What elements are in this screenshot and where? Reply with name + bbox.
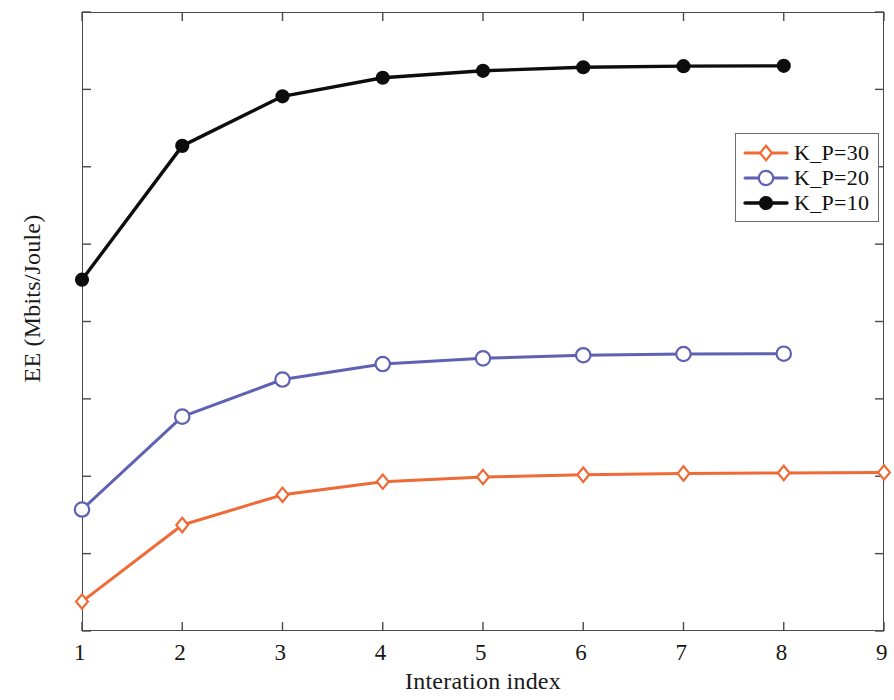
- legend-item[interactable]: K_P=10: [743, 190, 869, 215]
- chart-legend: K_P=30K_P=20K_P=10: [735, 133, 879, 222]
- axis-tick-marks: [82, 12, 884, 631]
- x-tick-label-text: 3: [275, 640, 287, 666]
- plot-canvas: [82, 12, 884, 631]
- legend-marker-diamond-icon: [743, 142, 789, 164]
- legend-marker-circle-icon: [743, 167, 789, 189]
- x-tick-label-text: 4: [375, 640, 387, 666]
- x-tick-label-text: 8: [776, 640, 788, 666]
- x-tick-label-text: 7: [676, 640, 688, 666]
- legend-item[interactable]: K_P=20: [743, 165, 869, 190]
- x-tick-label-text: 1: [74, 640, 86, 666]
- x-tick-label-text: 5: [475, 640, 487, 666]
- x-tick-label-text: 9: [876, 640, 888, 666]
- chart-figure: EE (Mbits/Joule) Interation index 0.250.…: [0, 0, 894, 700]
- series-k-p-20: [75, 346, 791, 516]
- x-axis-label: Interation index: [82, 668, 884, 695]
- x-tick-label-text: 6: [575, 640, 587, 666]
- y-axis-label: EE (Mbits/Joule): [19, 159, 46, 439]
- legend-marker-circle-icon: [743, 192, 789, 214]
- legend-item[interactable]: K_P=30: [743, 140, 869, 165]
- legend-item-label: K_P=30: [789, 140, 869, 166]
- series-k-p-30: [76, 465, 890, 609]
- series-k-p-10: [76, 60, 790, 286]
- legend-item-label: K_P=20: [789, 165, 869, 191]
- legend-item-label: K_P=10: [789, 190, 869, 216]
- x-tick-label-text: 2: [174, 640, 186, 666]
